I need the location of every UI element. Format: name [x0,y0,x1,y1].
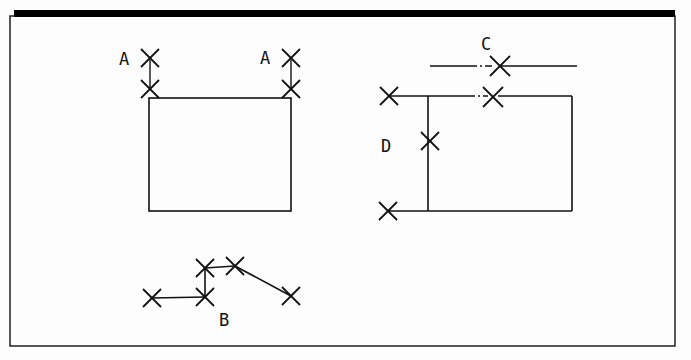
drawing-svg: AABCD [0,0,691,360]
label-a-right: A [260,48,270,68]
figure-b-segment-0 [152,297,205,298]
label-c: C [481,34,491,54]
label-d: D [381,136,391,156]
drawing-canvas: AABCD [0,0,691,360]
sheet-top-bar [14,10,675,17]
label-b: B [219,310,229,330]
label-a-left: A [119,49,129,69]
